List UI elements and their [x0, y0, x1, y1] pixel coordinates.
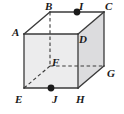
vertex-label-A: A [12, 27, 19, 38]
cube-figure: A B C D E F G H I J [0, 0, 124, 114]
vertex-label-E: E [15, 94, 22, 105]
point-label-J: J [52, 94, 58, 105]
vertex-label-F: F [52, 57, 59, 68]
vertex-label-B: B [45, 1, 52, 12]
point-label-I: I [79, 1, 83, 12]
vertex-label-C: C [105, 1, 112, 12]
vertex-label-H: H [76, 94, 85, 105]
cube-face-front [24, 34, 78, 88]
point-marker-J [48, 85, 55, 92]
vertex-label-G: G [107, 68, 115, 79]
vertex-label-D: D [79, 34, 87, 45]
